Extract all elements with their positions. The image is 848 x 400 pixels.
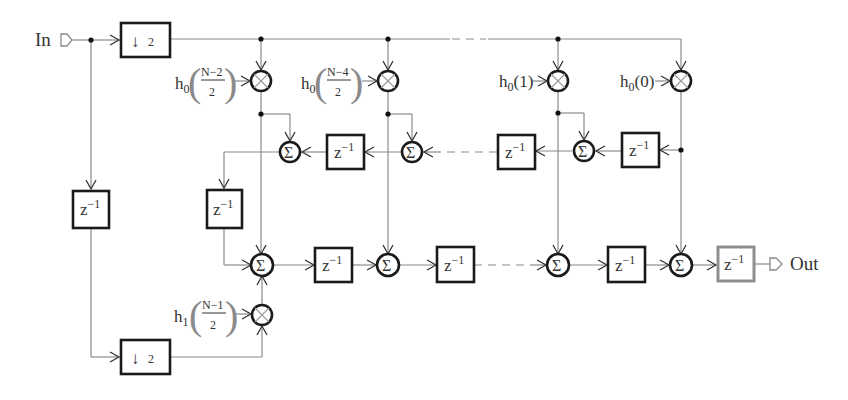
summer-upper-3: Σ (574, 141, 594, 161)
svg-text:): ) (224, 60, 237, 105)
summer-upper-1: Σ (280, 142, 300, 162)
delay-lower-2: z−1 (437, 247, 474, 282)
coef-label-col3: h0(1) (499, 72, 533, 94)
coef-label-col1: h0 ( N−2 2 ) (175, 60, 237, 105)
svg-text:2: 2 (335, 85, 341, 99)
svg-text:h0(1): h0(1) (499, 72, 533, 94)
svg-text:h0(0): h0(0) (620, 72, 654, 94)
delay-upper-1: z−1 (327, 135, 364, 169)
svg-text:(: ( (188, 60, 201, 105)
summer-lower-4: Σ (670, 254, 692, 276)
svg-text:N−2: N−2 (201, 65, 222, 79)
delay-left: z−1 (73, 191, 109, 228)
delay-col1-vertical: z−1 (207, 190, 242, 228)
svg-text:Σ: Σ (256, 257, 265, 274)
summer-lower-2: Σ (377, 254, 399, 276)
decimation-factor: 2 (148, 352, 154, 366)
multiplier-col1 (251, 71, 271, 91)
input-label: In (35, 29, 51, 50)
svg-text:): ) (350, 60, 363, 105)
delay-output: z−1 (718, 247, 754, 281)
coef-label-col4: h0(0) (620, 72, 654, 94)
svg-text:Σ: Σ (552, 257, 561, 274)
coef-label-col2: h0 ( N−4 2 ) (301, 60, 363, 105)
output-port: Out (770, 253, 819, 274)
svg-text:(: ( (189, 293, 202, 338)
input-port: In (35, 29, 72, 50)
svg-text:Σ: Σ (382, 257, 391, 274)
svg-text:Σ: Σ (406, 144, 415, 161)
multiplier-col2 (378, 71, 398, 91)
decimation-factor: 2 (148, 35, 154, 49)
svg-text:2: 2 (210, 318, 216, 332)
multiplier-col4 (671, 71, 691, 91)
multiplier-col3 (548, 71, 568, 91)
output-port-icon (770, 258, 782, 270)
decimator-bottom: ↓ 2 (121, 340, 170, 374)
input-port-icon (61, 34, 72, 46)
junction-dots (88, 36, 683, 152)
block-diagram: In Out ↓ 2 ↓ 2 z−1 z−1 z−1 z−1 z−1 z−1 (0, 0, 848, 400)
delay-lower-3: z−1 (608, 247, 645, 282)
multiplier-bottom (252, 305, 272, 325)
svg-text:Σ: Σ (578, 143, 587, 160)
svg-text:2: 2 (209, 85, 215, 99)
svg-text:Σ: Σ (284, 144, 293, 161)
summer-lower-3: Σ (547, 254, 569, 276)
down-arrow-icon: ↓ (131, 32, 140, 51)
decimator-top: ↓ 2 (121, 23, 170, 57)
summer-lower-1: Σ (251, 254, 273, 276)
down-arrow-icon: ↓ (131, 349, 140, 368)
summer-upper-2: Σ (402, 142, 422, 162)
delay-upper-2: z−1 (498, 135, 535, 169)
coef-label-bottom: h1 ( N−1 2 ) (174, 293, 238, 338)
delay-upper-3: z−1 (622, 133, 659, 167)
output-label: Out (790, 253, 819, 274)
svg-text:N−4: N−4 (327, 65, 348, 79)
svg-text:h1: h1 (174, 307, 189, 329)
svg-text:N−1: N−1 (202, 298, 223, 312)
svg-text:(: ( (314, 60, 327, 105)
delay-lower-1: z−1 (315, 248, 352, 282)
svg-text:): ) (225, 293, 238, 338)
svg-text:Σ: Σ (675, 257, 684, 274)
